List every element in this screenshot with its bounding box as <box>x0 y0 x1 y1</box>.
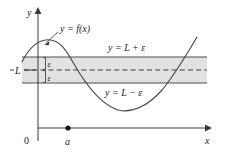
point-a-marker <box>65 125 70 130</box>
limit-label: L <box>14 65 21 76</box>
y-axis-label: y <box>26 7 32 18</box>
lower-bound-label: y = L − ε <box>104 87 142 98</box>
limit-epsilon-figure: y x 0 a L ε ε y = f(x) y = L + ε y = L −… <box>0 0 225 161</box>
upper-bound-label: y = L + ε <box>107 42 145 53</box>
function-callout-leader <box>47 32 59 43</box>
figure-canvas: y x 0 a L ε ε y = f(x) y = L + ε y = L −… <box>0 0 225 161</box>
x-axis-label: x <box>204 135 210 146</box>
origin-label: 0 <box>24 135 29 146</box>
point-a-label: a <box>65 136 70 147</box>
y-axis-arrowhead <box>35 7 42 14</box>
x-axis-arrowhead <box>205 124 212 131</box>
function-label: y = f(x) <box>59 23 91 35</box>
